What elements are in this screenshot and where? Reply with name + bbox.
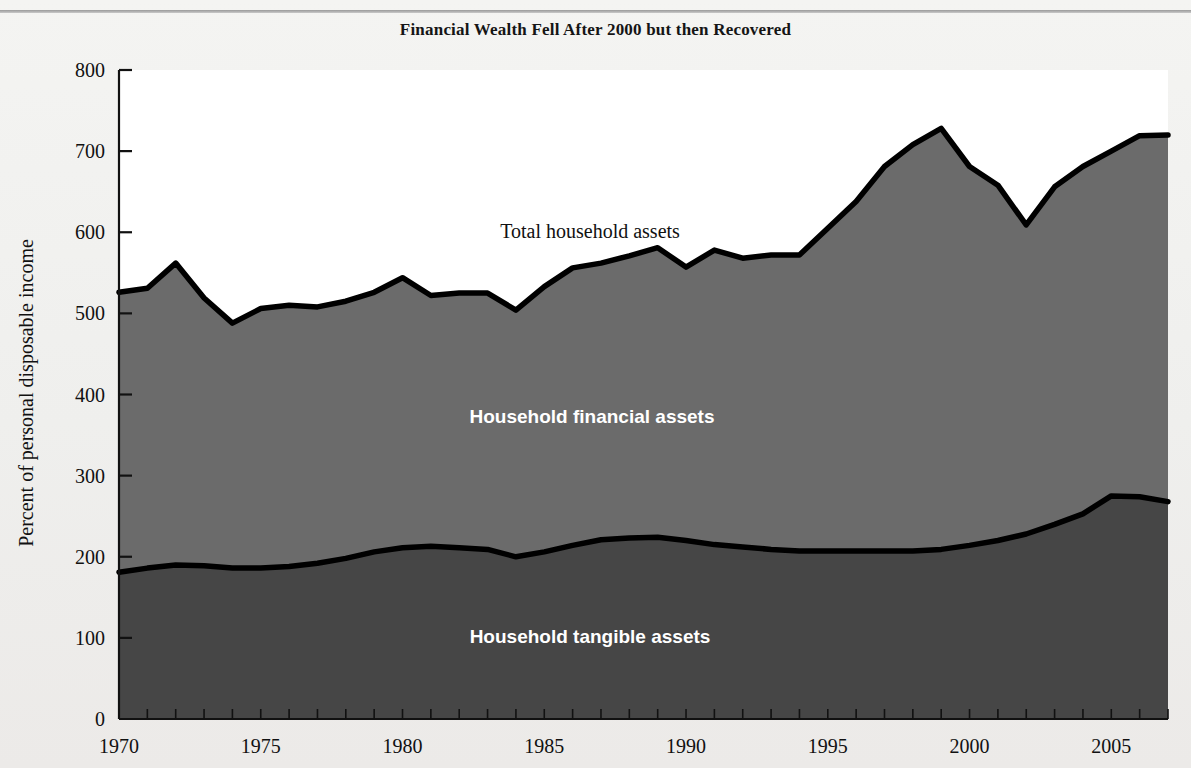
y-tick-label-0: 0 (95, 708, 105, 730)
y-tick-label-300: 300 (75, 465, 105, 487)
y-tick-label-600: 600 (75, 221, 105, 243)
x-tick-label-1975: 1975 (241, 735, 281, 757)
y-tick-label-700: 700 (75, 140, 105, 162)
y-tick-label-500: 500 (75, 302, 105, 324)
x-tick-label-1990: 1990 (666, 735, 706, 757)
y-tick-label-400: 400 (75, 384, 105, 406)
chart-area: 0100200300400500600700800197019751980198… (0, 0, 1191, 768)
x-tick-label-2000: 2000 (950, 735, 990, 757)
x-tick-label-2005: 2005 (1091, 735, 1131, 757)
x-tick-label-1980: 1980 (383, 735, 423, 757)
x-tick-label-1995: 1995 (808, 735, 848, 757)
annotation-total-household-assets: Total household assets (500, 220, 680, 242)
y-tick-label-800: 800 (75, 59, 105, 81)
figure-canvas: Financial Wealth Fell After 2000 but the… (0, 0, 1191, 768)
area-chart: 0100200300400500600700800197019751980198… (0, 0, 1191, 768)
x-tick-label-1985: 1985 (524, 735, 564, 757)
annotation-household-tangible-assets: Household tangible assets (470, 626, 711, 647)
annotation-household-financial-assets: Household financial assets (470, 406, 715, 427)
y-tick-label-100: 100 (75, 627, 105, 649)
x-tick-label-1970: 1970 (99, 735, 139, 757)
y-tick-label-200: 200 (75, 546, 105, 568)
